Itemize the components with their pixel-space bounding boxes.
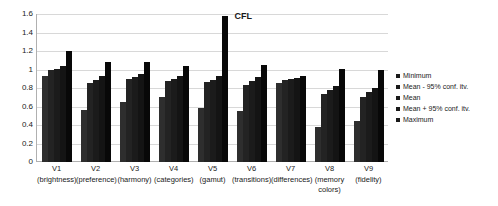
legend-item: Mean - 95% conf. itv. (396, 81, 496, 92)
legend-label: Mean (403, 94, 421, 101)
y-axis-tick-label: 0.8 (22, 84, 33, 92)
x-axis-category-name: V7 (271, 164, 310, 175)
bar-group (310, 14, 349, 162)
bar-group (154, 14, 193, 162)
legend-item: Maximum (396, 114, 496, 125)
y-axis-tick-label: 0 (29, 158, 33, 166)
bar-group (37, 14, 76, 162)
bar (378, 70, 384, 163)
bar (222, 16, 228, 162)
y-axis-tick-label: 1.2 (22, 47, 33, 55)
legend-item: Minimum (396, 70, 496, 81)
bar (144, 62, 150, 162)
legend-swatch-icon (396, 74, 400, 78)
legend-label: Mean + 95% conf. itv. (403, 105, 470, 112)
x-axis-category-label: V7(differences) (271, 164, 310, 185)
chart-container: 00.20.40.60.811.21.41.6 CFL V1(brightnes… (0, 0, 498, 206)
y-axis-tick-labels: 00.20.40.60.811.21.41.6 (0, 14, 33, 162)
bar-groups (37, 14, 388, 162)
legend-item: Mean (396, 92, 496, 103)
x-axis-category-label: V4(categories) (154, 164, 193, 185)
bar (300, 76, 306, 162)
legend-item: Mean + 95% conf. itv. (396, 103, 496, 114)
legend-swatch-icon (396, 118, 400, 122)
y-axis-tick-label: 1 (29, 66, 33, 74)
x-axis-category-label: V9(fidelity) (349, 164, 388, 185)
x-axis-category-label: V1(brightness) (37, 164, 76, 185)
bar-group (76, 14, 115, 162)
x-axis-category-name: V5 (193, 164, 232, 175)
x-axis-category-sublabel: (harmony) (115, 175, 154, 186)
x-axis-category-name: V2 (76, 164, 115, 175)
y-axis-tick-label: 0.6 (22, 103, 33, 111)
bar-group (349, 14, 388, 162)
x-axis-category-label: V6(transitions) (232, 164, 271, 185)
legend-swatch-icon (396, 85, 400, 89)
legend-swatch-icon (396, 96, 400, 100)
bar (261, 65, 267, 162)
x-axis-category-label: V8(memory colors) (310, 164, 349, 196)
x-axis-labels: V1(brightness)V2(preference)V3(harmony)V… (37, 164, 388, 206)
x-axis-category-name: V3 (115, 164, 154, 175)
bar (66, 51, 72, 162)
bar (105, 62, 111, 162)
bar (183, 66, 189, 162)
x-axis-category-sublabel: (differences) (271, 175, 310, 186)
chart-legend: MinimumMean - 95% conf. itv.MeanMean + 9… (396, 70, 496, 125)
y-axis-tick-label: 0.2 (22, 140, 33, 148)
x-axis-category-name: V1 (37, 164, 76, 175)
y-axis-tick-label: 1.4 (22, 29, 33, 37)
x-axis-category-name: V8 (310, 164, 349, 175)
x-axis-category-sublabel: (transitions) (232, 175, 271, 186)
y-axis-tick-label: 0.4 (22, 121, 33, 129)
bar (339, 69, 345, 162)
x-axis-category-label: V3(harmony) (115, 164, 154, 185)
legend-label: Maximum (403, 116, 433, 123)
bar-group (271, 14, 310, 162)
x-axis-category-sublabel: (categories) (154, 175, 193, 186)
x-axis-category-sublabel: (preference) (76, 175, 115, 186)
x-axis-category-name: V9 (349, 164, 388, 175)
x-axis-category-name: V6 (232, 164, 271, 175)
legend-swatch-icon (396, 107, 400, 111)
bar-group (193, 14, 232, 162)
x-axis-category-sublabel: (gamut) (193, 175, 232, 186)
y-axis-tick-label: 1.6 (22, 10, 33, 18)
x-axis-category-sublabel: (fidelity) (349, 175, 388, 186)
bar-group (232, 14, 271, 162)
x-axis-category-label: V2(preference) (76, 164, 115, 185)
bar-group (115, 14, 154, 162)
x-axis-category-sublabel: (brightness) (37, 175, 76, 186)
x-axis-category-name: V4 (154, 164, 193, 175)
legend-label: Mean - 95% conf. itv. (403, 83, 468, 90)
x-axis-category-sublabel: (memory colors) (310, 175, 349, 196)
x-axis-category-label: V5(gamut) (193, 164, 232, 185)
legend-label: Minimum (403, 72, 431, 79)
